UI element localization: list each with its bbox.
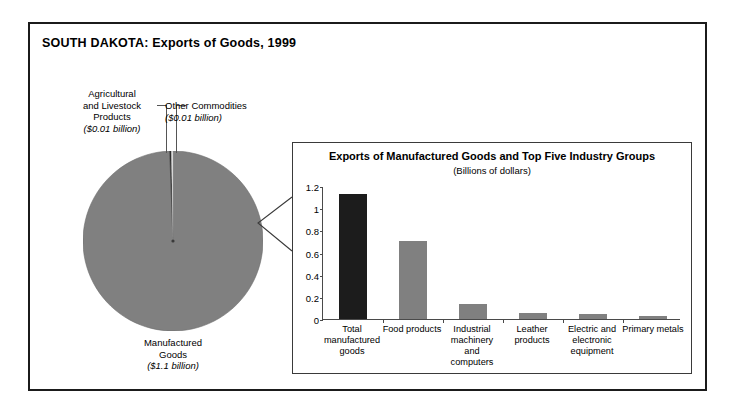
pie-label-manufactured: Manufactured Goods ($1.1 billion) [108, 337, 238, 372]
pie-label-manufactured-amount: ($1.1 billion) [108, 360, 238, 372]
bar-industrial-machinery-and-computers [459, 304, 487, 320]
figure-root: SOUTH DAKOTA: Exports of Goods, 1999 Agr… [0, 0, 734, 413]
y-tickmark-0.4 [320, 276, 323, 277]
pie-label-manufactured-line2: Goods [108, 349, 238, 361]
y-tick-label-0.8: 0.8 [306, 226, 319, 237]
x-axis-label-line: products [502, 335, 562, 346]
pie-label-agricultural-line3: Products [62, 111, 162, 123]
y-tickmark-1.2 [320, 187, 323, 188]
callout-connector [252, 195, 296, 257]
y-tickmark-0.2 [320, 298, 323, 299]
inset-chart-title: Exports of Manufactured Goods and Top Fi… [293, 150, 691, 162]
pie-label-agricultural: Agricultural and Livestock Products ($0.… [62, 88, 162, 134]
pie-chart [83, 151, 263, 331]
x-axis-label-line: Industrial [442, 324, 502, 335]
y-tick-label-0: 0 [314, 315, 319, 326]
x-axis-label-line: equipment [562, 346, 622, 357]
y-tick-label-0.4: 0.4 [306, 270, 319, 281]
x-axis-label-total-manufactured-goods: Total manufactured goods [322, 324, 382, 357]
x-tickmark-3 [503, 319, 504, 323]
x-tickmark-2 [443, 319, 444, 323]
bar-electric-and-electronic-equipment [579, 314, 607, 319]
inset-chart-subtitle: (Billions of dollars) [293, 165, 691, 176]
x-axis-label-leather-products: Leather products [502, 324, 562, 346]
x-axis-label-line: Food products [382, 324, 442, 335]
inset-bar-chart-panel: Exports of Manufactured Goods and Top Fi… [292, 142, 692, 374]
x-tickmark-5 [623, 319, 624, 323]
pie-label-other-amount: ($0.01 billion) [165, 112, 275, 124]
x-axis-label-line: electronic [562, 335, 622, 346]
y-tick-label-0.6: 0.6 [306, 248, 319, 259]
x-tickmark-4 [563, 319, 564, 323]
y-tickmark-0.6 [320, 254, 323, 255]
y-tick-label-0.2: 0.2 [306, 292, 319, 303]
x-axis-label-primary-metals: Primary metals [620, 324, 686, 335]
y-tickmark-1 [320, 209, 323, 210]
x-axis-label-line: Primary metals [620, 324, 686, 335]
pie-label-agricultural-amount: ($0.01 billion) [62, 123, 162, 135]
pie-label-other: Other Commodities ($0.01 billion) [165, 100, 275, 123]
pie-label-manufactured-line1: Manufactured [108, 337, 238, 349]
x-tickmark-1 [383, 319, 384, 323]
y-tickmark-0 [320, 320, 323, 321]
x-axis-label-food-products: Food products [382, 324, 442, 335]
x-axis-label-line: Leather [502, 324, 562, 335]
pie-svg [83, 151, 263, 331]
bar-primary-metals [639, 316, 667, 319]
x-axis-label-electric-and-electronic-equipment: Electric and electronic equipment [562, 324, 622, 357]
x-axis-label-line: Total [322, 324, 382, 335]
bar-leather-products [519, 313, 547, 319]
pie-label-agricultural-line1: Agricultural [62, 88, 162, 100]
bar-food-products [399, 241, 427, 319]
y-tick-label-1.2: 1.2 [306, 182, 319, 193]
x-axis-label-line: goods [322, 346, 382, 357]
pie-center-dot [171, 239, 174, 242]
x-axis-label-line: computers [442, 357, 502, 368]
pie-label-agricultural-line2: and Livestock [62, 100, 162, 112]
y-tick-label-1: 1 [314, 204, 319, 215]
x-axis-label-line: Electric and [562, 324, 622, 335]
x-axis-label-line: machinery and [442, 335, 502, 357]
pie-label-other-line1: Other Commodities [165, 100, 275, 112]
x-axis-label-industrial-machinery-and-computers: Industrial machinery and computers [442, 324, 502, 368]
x-axis-label-line: manufactured [322, 335, 382, 346]
page-title: SOUTH DAKOTA: Exports of Goods, 1999 [42, 36, 296, 50]
plot-area: 1.2 1 0.8 0.6 0.4 0.2 0 [322, 187, 680, 320]
y-tickmark-0.8 [320, 231, 323, 232]
bar-total-manufactured-goods [339, 194, 367, 319]
